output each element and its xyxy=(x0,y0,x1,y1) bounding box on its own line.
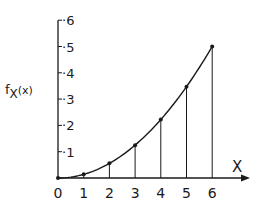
pdf-chart: 0123456 ·1·2·3·4·5·6 X fX(x) xyxy=(0,0,263,205)
y-tick-label: ·4 xyxy=(62,66,74,81)
x-tick-label: 2 xyxy=(105,185,114,201)
y-tick-label: ·2 xyxy=(62,118,74,133)
x-tick-label: 1 xyxy=(79,185,88,201)
data-point xyxy=(159,118,163,122)
axes xyxy=(58,20,250,181)
data-point xyxy=(107,161,111,165)
y-tick-label: ·1 xyxy=(62,145,74,160)
x-axis-arrow-icon xyxy=(241,175,250,182)
x-tick-label: 4 xyxy=(156,185,165,201)
y-tick-label: ·3 xyxy=(62,92,74,107)
data-point xyxy=(56,176,60,180)
x-tick-label: 5 xyxy=(182,185,191,201)
y-axis-label-arg: (x) xyxy=(18,84,33,97)
x-axis-label: X xyxy=(232,158,242,176)
x-tick-label: 0 xyxy=(54,185,63,201)
x-tick-label: 6 xyxy=(208,185,217,201)
x-tick-label: 3 xyxy=(131,185,140,201)
x-tick-labels: 0123456 xyxy=(54,185,217,201)
stems xyxy=(84,47,213,179)
data-point xyxy=(133,143,137,147)
data-point xyxy=(185,85,189,89)
y-tick-labels: ·1·2·3·4·5·6 xyxy=(62,13,74,160)
y-axis-label: fX(x) xyxy=(5,82,33,101)
y-axis-label-sub: X xyxy=(10,87,18,101)
y-tick-label: ·5 xyxy=(62,40,74,55)
data-point xyxy=(82,172,86,176)
data-point xyxy=(210,45,214,49)
y-tick-label: ·6 xyxy=(62,13,74,28)
